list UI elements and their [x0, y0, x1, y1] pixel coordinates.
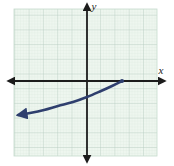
grid-area: [14, 9, 157, 156]
x-axis-label: x: [158, 64, 164, 76]
curve-endpoint-marker: [120, 79, 124, 83]
coordinate-plane-figure: x y: [0, 0, 174, 166]
graph-canvas: x y: [0, 0, 174, 166]
grid-lines: [14, 9, 157, 156]
y-axis-label: y: [91, 0, 97, 12]
